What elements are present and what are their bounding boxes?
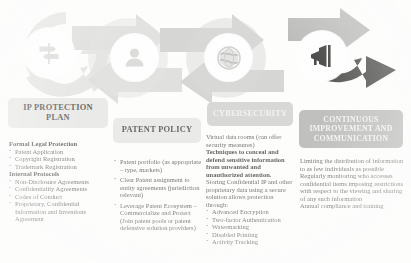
megaphone-icon bbox=[308, 43, 336, 69]
signpost-icon bbox=[35, 39, 63, 67]
pill-ip-title-line2: PLAN bbox=[46, 113, 70, 122]
list-formal-legal: Patent Application Copyright Registratio… bbox=[9, 148, 109, 171]
list-cybersecurity-measures: Advanced Encryption Two-factor Authentic… bbox=[206, 208, 296, 246]
pill-cyber-title: CYBERSECURITY bbox=[213, 109, 287, 119]
stage-2-icon-circle bbox=[111, 34, 158, 81]
pill-continuous-improvement: CONTINUOUS IMPROVEMENT AND COMMUNICATION bbox=[299, 110, 403, 148]
pill-cic-title-line3: COMMUNICATION bbox=[314, 134, 389, 143]
list-item: Advanced Encryption bbox=[206, 208, 296, 216]
list-item: Proprietary, Confidential Information an… bbox=[9, 200, 109, 223]
list-item: Copyright Registration bbox=[9, 155, 109, 163]
list-item: Leverage Patent Ecosystem – Commercializ… bbox=[114, 202, 202, 232]
cyber-paragraph: Virtual data rooms (can offer security m… bbox=[206, 133, 296, 148]
pill-cic-title-line2: IMPROVEMENT AND bbox=[309, 124, 392, 133]
column-patent-policy: Patent portfolio (as appropriate – type,… bbox=[114, 158, 202, 233]
column-continuous-improvement: Limiting the distribution of information… bbox=[300, 157, 404, 210]
stage-4-icon-circle bbox=[297, 31, 347, 81]
pill-patent-title: PATENT POLICY bbox=[122, 125, 193, 135]
list-item: Codes of Conduct bbox=[9, 193, 109, 201]
pill-cic-title-line1: CONTINUOUS bbox=[323, 115, 378, 124]
column-cybersecurity: Virtual data rooms (can offer security m… bbox=[206, 133, 296, 246]
pill-cybersecurity: CYBERSECURITY bbox=[207, 102, 293, 126]
user-icon bbox=[122, 45, 147, 70]
list-item: Watermarking bbox=[206, 223, 296, 231]
globe-icon bbox=[216, 45, 242, 71]
list-item: Clear Patent assignment to entity agreem… bbox=[114, 176, 202, 199]
pill-ip-protection-plan: IP PROTECTION PLAN bbox=[8, 98, 108, 128]
group-heading-internal-protocols: Internal Protocols bbox=[9, 170, 109, 178]
list-item: Patent portfolio (as appropriate – type,… bbox=[114, 158, 202, 173]
cyber-paragraph: Techniques to conceal and defend sensiti… bbox=[206, 148, 296, 178]
cic-paragraph: Regularly monitoring who accesses confid… bbox=[300, 172, 404, 202]
list-patent-policy: Patent portfolio (as appropriate – type,… bbox=[114, 158, 202, 232]
stage-3-icon-circle bbox=[205, 34, 252, 81]
column-ip-protection-plan: Formal Legal Protection Patent Applicati… bbox=[9, 140, 109, 223]
group-heading-formal-legal: Formal Legal Protection bbox=[9, 140, 109, 148]
pill-patent-policy: PATENT POLICY bbox=[113, 118, 201, 143]
stage-1-icon-circle bbox=[24, 28, 74, 78]
process-arrow-graphic bbox=[0, 4, 411, 109]
list-item: Two-factor Authentication bbox=[206, 216, 296, 224]
cyber-paragraph: Storing Confidential IP and other propri… bbox=[206, 178, 296, 208]
list-item: Disabled Printing bbox=[206, 231, 296, 239]
list-item: Trademark Registration bbox=[9, 163, 109, 171]
cic-paragraph: Annual compliance and training bbox=[300, 202, 404, 210]
list-item: Activity Tracking bbox=[206, 238, 296, 246]
list-internal-protocols: Non-Disclosure Agreements Confidentialit… bbox=[9, 178, 109, 223]
list-item: Non-Disclosure Agreements bbox=[9, 178, 109, 186]
list-item: Patent Application bbox=[9, 148, 109, 156]
process-diagram-page: IP PROTECTION PLAN PATENT POLICY CYBERSE… bbox=[0, 0, 411, 263]
list-item: Confidentiality Agreements bbox=[9, 185, 109, 193]
pill-ip-title-line1: IP PROTECTION bbox=[23, 103, 93, 112]
cic-paragraph: Limiting the distribution of information… bbox=[300, 157, 404, 172]
